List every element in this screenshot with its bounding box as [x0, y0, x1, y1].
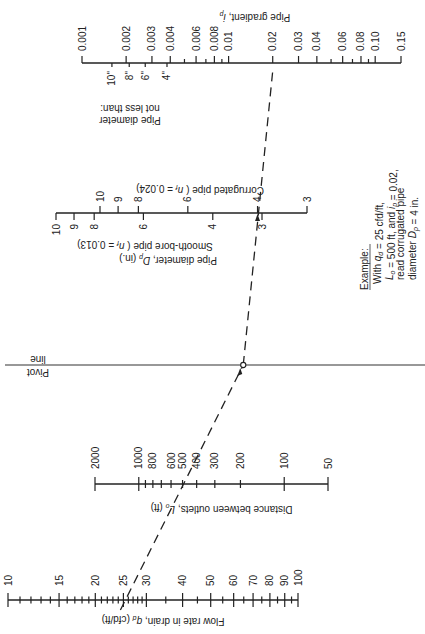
pivot-label: Pivot	[27, 367, 49, 378]
flow-rate-tick-label: 30	[141, 574, 152, 586]
example-text: Example:With qd = 25 cfd/ft,Lo = 500 ft,…	[359, 169, 420, 290]
flow-rate-axis: 1015202530405060708090100Flow rate in dr…	[3, 569, 304, 627]
distance-tick-label: 400	[191, 452, 202, 469]
pipe-diameter-axis-title: Pipe diameter, Dp (in.)	[119, 253, 217, 266]
min-diameter-label: 10"	[106, 71, 117, 86]
gradient-tick-label: 0.06	[337, 31, 348, 51]
min-diameter-title: not less than:	[100, 103, 159, 114]
gradient-tick-label: 0.03	[293, 31, 304, 51]
smooth-bore-tick-label: 3	[257, 224, 268, 230]
arrowhead-pivot	[237, 368, 242, 376]
flow-rate-tick-label: 25	[118, 574, 129, 586]
corrugated-tick-label: 8	[133, 196, 144, 202]
distance-tick-label: 500	[177, 452, 188, 469]
distance-axis: 2000100080060050040030020010050Distance …	[90, 446, 334, 515]
example-line: With qd = 25 cfd/ft,	[372, 202, 385, 284]
corrugated-tick-label: 10	[95, 190, 106, 202]
corrugated-pipe-label: Corrugated pipe ( nf = 0.024)	[136, 183, 264, 196]
distance-tick-label: 300	[209, 452, 220, 469]
flow-rate-tick-label: 20	[90, 574, 101, 586]
min-diameter-label: 6"	[140, 71, 151, 81]
gradient-tick-label: 0.08	[355, 31, 366, 51]
flow-rate-tick-label: 50	[205, 574, 216, 586]
gradient-tick-label: 0.003	[146, 26, 157, 51]
smooth-bore-tick-label: 6	[138, 224, 149, 230]
arrowhead-pipe-diameter	[255, 214, 260, 221]
distance-tick-label: 1000	[133, 446, 144, 469]
gradient-tick-label: 0.10	[370, 31, 381, 51]
smooth-bore-tick-label: 9	[69, 224, 80, 230]
gradient-tick-label: 0.15	[396, 31, 407, 51]
min-diameter-label: 4"	[161, 71, 172, 81]
distance-tick-label: 100	[279, 452, 290, 469]
gradient-tick-label: 0.001	[77, 26, 88, 51]
gradient-tick-label: 0.02	[267, 31, 278, 51]
nomograph: 1015202530405060708090100Flow rate in dr…	[0, 0, 425, 634]
gradient-tick-label: 0.006	[191, 26, 202, 51]
example-line: diameter Dp = 4 in.	[407, 197, 420, 280]
flow-rate-tick-label: 60	[228, 574, 239, 586]
distance-tick-label: 600	[166, 452, 177, 469]
gradient-tick-label: 0.004	[165, 26, 176, 51]
flow-rate-tick-label: 100	[293, 569, 304, 586]
smooth-bore-tick-label: 4	[207, 224, 218, 230]
gradient-tick-label: 0.008	[209, 26, 220, 51]
min-diameter-title: Pipe diameter	[98, 115, 160, 126]
smooth-bore-tick-label: 10	[51, 224, 62, 236]
flow-rate-axis-title: Flow rate in drain, qd (cfd/ft)	[102, 614, 225, 627]
distance-tick-label: 200	[235, 452, 246, 469]
min-diameter-label: 8"	[124, 71, 135, 81]
example-line: read corrugated pipe	[395, 187, 406, 280]
smooth-bore-pipe-label: Smooth-bore pipe ( nf = 0.013)	[77, 239, 213, 252]
example-heading: Example:	[359, 248, 370, 290]
distance-tick-label: 50	[323, 457, 334, 469]
distance-tick-label: 800	[147, 452, 158, 469]
example-solution-line	[120, 71, 272, 610]
flow-rate-tick-label: 90	[279, 574, 290, 586]
distance-tick-label: 2000	[90, 446, 101, 469]
gradient-axis-title: Pipe gradient, ip	[220, 10, 291, 23]
gradient-tick-label: 0.04	[311, 31, 322, 51]
flow-rate-tick-label: 15	[54, 574, 65, 586]
pivot-line-group: Pivotline	[5, 354, 425, 378]
smooth-bore-tick-label: 8	[89, 224, 100, 230]
flow-rate-tick-label: 10	[3, 574, 14, 586]
pipe-diameter-axis: 10986431098643Corrugated pipe ( nf = 0.0…	[51, 183, 313, 266]
pivot-point-marker	[241, 362, 246, 367]
pipe-gradient-axis: 0.0010.0020.0030.0040.0060.0080.010.020.…	[77, 10, 407, 126]
corrugated-tick-label: 3	[302, 196, 313, 202]
gradient-tick-label: 0.002	[121, 26, 132, 51]
flow-rate-tick-label: 70	[248, 574, 259, 586]
flow-rate-tick-label: 40	[177, 574, 188, 586]
corrugated-tick-label: 9	[113, 196, 124, 202]
flow-rate-tick-label: 80	[264, 574, 275, 586]
pivot-label: line	[30, 354, 46, 365]
gradient-tick-label: 0.01	[223, 31, 234, 51]
